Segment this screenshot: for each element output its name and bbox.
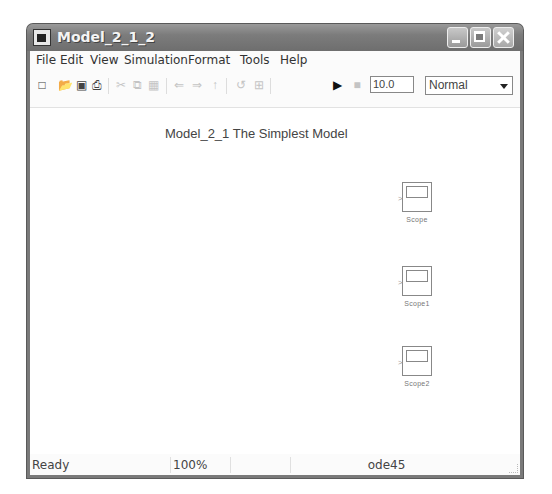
status-text: Ready	[30, 457, 170, 473]
scope-screen-icon	[406, 350, 428, 362]
print-icon[interactable]: ⎙	[90, 78, 104, 92]
save-icon[interactable]: ▣	[74, 78, 88, 92]
menu-bar: File Edit View Simulation Format Tools H…	[30, 51, 520, 71]
simulation-mode-value: Normal	[429, 78, 468, 92]
scope2-block[interactable]: >	[402, 346, 432, 376]
redo-icon[interactable]: ⇒	[190, 78, 204, 92]
window-title: Model_2_1_2	[57, 29, 155, 45]
scope-screen-icon	[406, 270, 428, 282]
input-port-icon[interactable]: >	[398, 278, 403, 287]
toolbar-separator	[270, 78, 271, 94]
menu-file[interactable]: File	[36, 53, 56, 67]
scope2-label[interactable]: Scope2	[397, 380, 437, 387]
menu-help[interactable]: Help	[280, 53, 307, 67]
paste-icon[interactable]: ▦	[146, 78, 160, 92]
stop-time-input[interactable]: 10.0	[370, 76, 414, 93]
input-port-icon[interactable]: >	[398, 358, 403, 367]
scope-block[interactable]: >	[402, 182, 432, 212]
close-button[interactable]	[493, 27, 514, 48]
scope1-block[interactable]: >	[402, 266, 432, 296]
toolbar-separator	[166, 78, 167, 94]
toolbar-separator	[226, 78, 227, 94]
menu-format[interactable]: Format	[188, 53, 230, 67]
scope1-label[interactable]: Scope1	[397, 300, 437, 307]
scope-label[interactable]: Scope	[397, 216, 437, 223]
resize-grip-icon[interactable]	[509, 464, 518, 473]
menu-edit[interactable]: Edit	[60, 53, 83, 67]
toolbar: □ 📂 ▣ ⎙ ✂ ⧉ ▦ ⇐ ⇒ ↑ ↺ ⊞ ▶ ■ 10.0 Normal	[30, 72, 520, 100]
menu-simulation[interactable]: Simulation	[124, 53, 188, 67]
model-annotation[interactable]: Model_2_1 The Simplest Model	[165, 126, 348, 141]
status-empty-cell	[230, 457, 290, 473]
title-bar[interactable]: Model_2_1_2	[27, 24, 523, 51]
up-icon[interactable]: ↑	[208, 78, 222, 92]
chevron-down-icon	[500, 84, 508, 89]
model-canvas[interactable]: Model_2_1 The Simplest Model > Scope > S…	[30, 107, 520, 454]
open-icon[interactable]: 📂	[58, 78, 72, 92]
simulink-app-icon[interactable]	[33, 29, 51, 46]
toolbar-separator	[108, 78, 109, 94]
start-icon[interactable]: ▶	[330, 78, 344, 92]
input-port-icon[interactable]: >	[398, 194, 403, 203]
model-explorer-icon[interactable]: ⊞	[252, 78, 266, 92]
maximize-button[interactable]	[470, 27, 491, 48]
simulation-mode-select[interactable]: Normal	[425, 76, 513, 95]
zoom-level: 100%	[170, 457, 230, 473]
solver-name: ode45	[290, 457, 480, 473]
cut-icon[interactable]: ✂	[114, 78, 128, 92]
model-window: Model_2_1_2 File Edit View Simulation Fo…	[27, 24, 523, 478]
client-area: File Edit View Simulation Format Tools H…	[30, 51, 520, 475]
scope-screen-icon	[406, 186, 428, 198]
menu-view[interactable]: View	[90, 53, 118, 67]
undo-icon[interactable]: ⇐	[172, 78, 186, 92]
minimize-button[interactable]	[447, 27, 468, 48]
copy-icon[interactable]: ⧉	[130, 78, 144, 92]
stop-icon[interactable]: ■	[350, 78, 364, 92]
menu-tools[interactable]: Tools	[240, 53, 270, 67]
new-icon[interactable]: □	[35, 78, 49, 92]
status-bar: Ready 100% ode45	[30, 455, 520, 475]
library-icon[interactable]: ↺	[234, 78, 248, 92]
